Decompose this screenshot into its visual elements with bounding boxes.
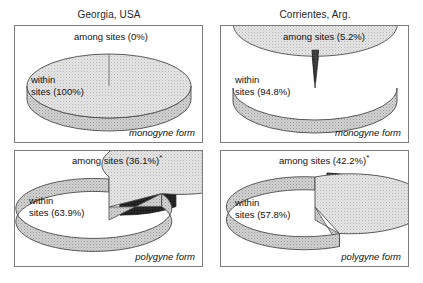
label-within-sites: within sites (94.8%) (235, 74, 290, 97)
column-title-corrientes: Corrientes, Arg. (220, 9, 410, 20)
panel-georgia-polygyne: among sites (36.1%)* within sites (63.9%… (14, 150, 203, 267)
label-among-sites: among sites (5.2%) (283, 31, 365, 42)
label-colony-form: polygyne form (135, 251, 195, 262)
label-colony-form: polygyne form (341, 251, 401, 262)
label-colony-form: monogyne form (129, 127, 195, 138)
panel-corrientes-monogyne: among sites (5.2%) within sites (94.8%) … (220, 25, 409, 143)
label-among-sites: among sites (36.1%)* (72, 155, 162, 166)
label-among-sites: among sites (42.2%)* (279, 155, 369, 166)
label-within-sites: within sites (57.8%) (235, 197, 290, 220)
label-within-sites: within sites (63.9%) (29, 195, 84, 218)
label-among-sites: among sites (0%) (74, 31, 148, 42)
panel-corrientes-polygyne: among sites (42.2%)* within sites (57.8%… (220, 150, 409, 267)
figure-amova-pies: Georgia, USA Corrientes, Arg. (0, 0, 423, 283)
label-within-sites: within sites (100%) (31, 74, 84, 97)
column-title-georgia: Georgia, USA (14, 9, 204, 20)
panel-georgia-monogyne: among sites (0%) within sites (100%) mon… (14, 25, 203, 143)
label-colony-form: monogyne form (335, 127, 401, 138)
